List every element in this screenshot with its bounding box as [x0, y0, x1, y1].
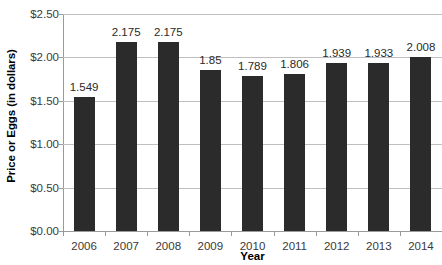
gridline [63, 231, 442, 232]
plot-area: 1.5492.1752.1751.851.7891.8061.9391.9332… [63, 14, 442, 231]
x-axis-tick-label: 2013 [366, 240, 392, 252]
x-axis-tickmark [274, 231, 275, 236]
bar[interactable] [410, 57, 431, 231]
bar-value-label: 2.175 [154, 26, 183, 38]
y-axis-tickmark [58, 14, 63, 15]
bar-value-label: 1.549 [70, 81, 99, 93]
x-axis-tickmark [316, 231, 317, 236]
y-axis-tickmark [58, 144, 63, 145]
x-axis-tick-label: 2012 [324, 240, 350, 252]
y-axis-tickmark [58, 188, 63, 189]
x-axis-tick-label: 2011 [282, 240, 307, 252]
bar[interactable] [158, 42, 179, 231]
x-axis-tick-label: 2014 [408, 240, 434, 252]
x-axis-tickmark [231, 231, 232, 236]
y-axis-tick-label: $2.00 [15, 51, 59, 63]
y-axis-tick-label: $0.50 [15, 182, 59, 194]
bar-value-label: 1.789 [238, 60, 267, 72]
y-axis-tick-label: $2.50 [15, 8, 59, 20]
bar-value-label: 1.806 [280, 58, 309, 70]
x-axis-tickmark [189, 231, 190, 236]
x-axis-tick-label: 2006 [71, 240, 97, 252]
gridline [63, 14, 442, 15]
y-axis-tick-label: $0.00 [15, 225, 59, 237]
x-axis-tickmark [400, 231, 401, 236]
bar-chart: Price or Eggs (in dollars) $0.00$0.50$1.… [0, 0, 442, 265]
y-axis-tick-label: $1.00 [15, 138, 59, 150]
bar[interactable] [326, 63, 347, 231]
bar-value-label: 1.85 [199, 54, 221, 66]
x-axis-tickmark [358, 231, 359, 236]
bar[interactable] [242, 76, 263, 231]
bar-value-label: 1.939 [322, 47, 351, 59]
bar[interactable] [368, 63, 389, 231]
bar-value-label: 2.008 [407, 41, 436, 53]
x-axis-tick-label: 2007 [113, 240, 139, 252]
x-axis-tickmark [105, 231, 106, 236]
x-axis-tick-label: 2010 [240, 240, 266, 252]
bar[interactable] [74, 97, 95, 231]
y-axis-tickmark [58, 101, 63, 102]
bar[interactable] [200, 70, 221, 231]
bar-value-label: 1.933 [364, 47, 393, 59]
bar[interactable] [284, 74, 305, 231]
y-axis-tickmark [58, 57, 63, 58]
bar[interactable] [116, 42, 137, 231]
y-axis-tick-labels: $0.00$0.50$1.00$1.50$2.00$2.50 [14, 0, 59, 265]
x-axis-tickmark [63, 231, 64, 236]
y-axis-tick-label: $1.50 [15, 95, 59, 107]
x-axis-tick-label: 2009 [198, 240, 224, 252]
x-axis-tickmark [147, 231, 148, 236]
bar-value-label: 2.175 [112, 26, 141, 38]
x-axis-tick-label: 2008 [155, 240, 181, 252]
